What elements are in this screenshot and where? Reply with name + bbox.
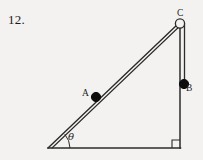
angle-theta-label: θ (68, 132, 74, 142)
right-angle-marker (172, 140, 180, 148)
incline-surface-line (48, 23, 179, 148)
rope-along-incline (52, 24, 182, 148)
problem-number: 12. (8, 13, 25, 26)
pulley-c-icon (175, 19, 184, 28)
mass-b-label: B (186, 84, 192, 94)
mass-a-label: A (82, 89, 89, 99)
inclined-plane-diagram (0, 0, 203, 160)
pulley-c-label: C (177, 9, 183, 19)
mass-a-marker (91, 92, 100, 101)
physics-figure: 12. A B C θ (0, 0, 203, 160)
